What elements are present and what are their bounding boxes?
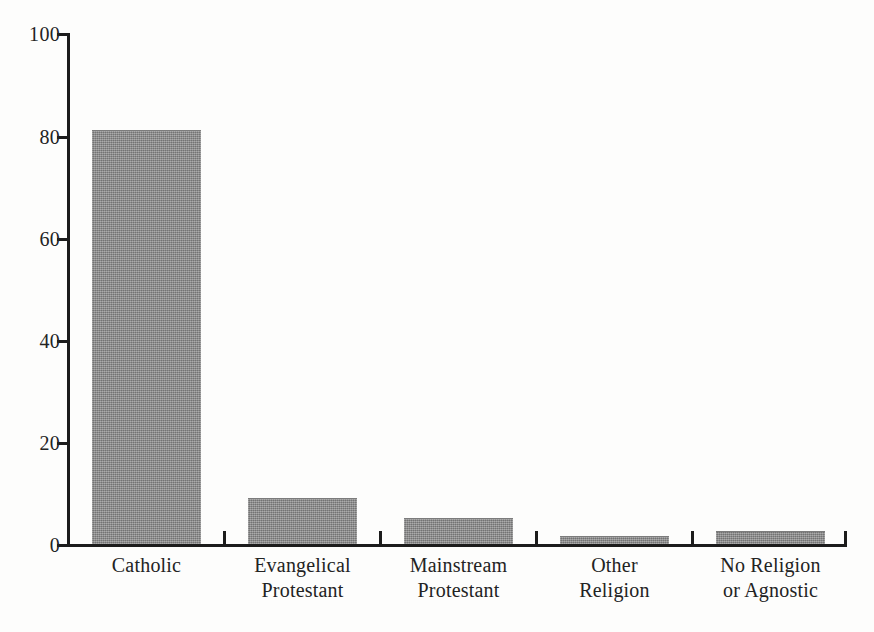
x-axis-label-other-religion: Other Religion — [535, 553, 694, 603]
y-axis-label-100: 100 — [0, 24, 60, 44]
x-tick-start — [67, 531, 70, 545]
bar-catholic — [92, 130, 201, 544]
x-axis-label-evangelical-protestant: Evangelical Protestant — [223, 553, 382, 603]
bar-no-religion-or-agnostic — [716, 531, 825, 544]
x-tick-end — [844, 531, 847, 545]
y-axis-label-80: 80 — [0, 127, 60, 147]
x-tick-3 — [535, 531, 538, 545]
y-axis-line — [67, 33, 70, 547]
y-axis-label-40: 40 — [0, 331, 60, 351]
x-tick-1 — [223, 531, 226, 545]
y-axis-label-0: 0 — [0, 535, 60, 555]
bar-chart: 0 20 40 60 80 100 Catholic Evangelical P… — [0, 0, 874, 632]
x-axis-line — [67, 544, 847, 547]
x-axis-label-no-religion-or-agnostic: No Religion or Agnostic — [691, 553, 850, 603]
plot-area: 0 20 40 60 80 100 Catholic Evangelical P… — [0, 0, 874, 632]
x-tick-4 — [691, 531, 694, 545]
y-axis-label-60: 60 — [0, 229, 60, 249]
x-axis-label-mainstream-protestant: Mainstream Protestant — [379, 553, 538, 603]
bar-other-religion — [560, 536, 669, 544]
x-axis-label-catholic: Catholic — [67, 553, 226, 578]
x-tick-2 — [379, 531, 382, 545]
bar-evangelical-protestant — [248, 498, 357, 544]
bar-mainstream-protestant — [404, 518, 513, 544]
y-axis-label-20: 20 — [0, 433, 60, 453]
